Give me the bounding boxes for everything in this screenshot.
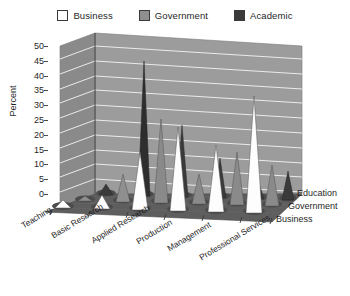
plot-area [0,0,350,296]
y-tick-label: 5 [18,174,44,184]
y-tick-label: 20 [18,130,44,140]
cone-chart-3d: Business Government Academic Percent [0,0,350,296]
y-tick-label: 25 [18,115,44,125]
y-tick-label: 10 [18,159,44,169]
y-tick-label: 30 [18,100,44,110]
y-tick-label: 45 [18,56,44,66]
z-label-education: Education [297,188,337,198]
y-tick-label: 50 [18,41,44,51]
y-tick-label: 35 [18,85,44,95]
z-label-government: Government [288,201,338,211]
z-label-business: Business [276,214,313,224]
y-axis-ticks: 50 45 40 35 30 25 20 15 10 5 0 [14,0,44,296]
y-tick-label: 15 [18,145,44,155]
y-tick-label: 40 [18,71,44,81]
y-tick-label: 0 [18,189,44,199]
